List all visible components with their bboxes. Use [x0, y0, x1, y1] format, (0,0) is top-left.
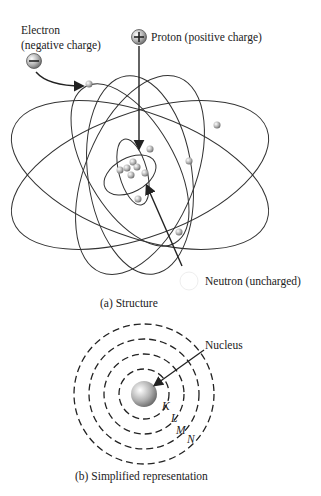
electron-arrow [36, 72, 82, 86]
atom-diagram [0, 0, 321, 496]
proton-label: Proton (positive charge) [151, 31, 262, 44]
electron-label-line1: Electron [21, 24, 60, 37]
shell-n: N [187, 433, 195, 446]
nucleus-label: Nucleus [205, 339, 243, 352]
nucleus-particles [117, 159, 149, 179]
neutron-symbol-icon [180, 272, 198, 290]
shell-k: K [162, 400, 170, 413]
shell-m: M [176, 424, 186, 437]
neutron-label: Neutron (uncharged) [205, 275, 301, 288]
caption-a: (a) Structure [100, 297, 158, 310]
electron-label-line2: (negative charge) [21, 39, 101, 52]
neutron-arrow [147, 186, 182, 266]
nucleus-ball [131, 381, 157, 407]
caption-b: (b) Simplified representation [75, 470, 208, 483]
